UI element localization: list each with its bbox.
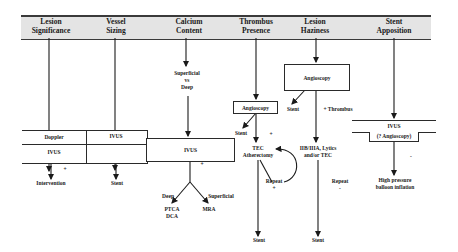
repeat-minus-label: Repeat - — [332, 178, 349, 192]
doppler-ivus-table — [22, 130, 148, 164]
apposition-ivus-label: IVUS — [387, 123, 400, 130]
calcium-ivus-label: IVUS — [147, 147, 234, 153]
high-pressure-balloon-outcome: High pressure balloon inflation — [376, 177, 415, 191]
tec-atherectomy: TEC Atherectomy — [243, 145, 273, 159]
repeat-plus-label: Repeat + — [266, 178, 283, 192]
thrombus-plus-sign: + — [269, 131, 272, 138]
intervention-outcome: Intervention — [36, 180, 65, 187]
calcium-ivus-box: IVUS — [146, 138, 235, 162]
lesion-plus-sign: + — [63, 166, 66, 173]
superficial-label: Superficial — [208, 193, 234, 200]
haziness-stent-outcome: Stent — [312, 237, 324, 244]
vessel-stent-outcome: Stent — [111, 180, 123, 187]
iib-iiia-lytics-tec: IIB/IIIA, Lytics and/or TEC — [300, 145, 337, 159]
plus-thrombus-label: + Thrombus — [323, 106, 352, 113]
haziness-stent-neg: Stent — [287, 106, 299, 113]
lesion-ivus-label: IVUS — [47, 149, 60, 156]
haziness-angioscopy-box: Angioscopy — [284, 64, 350, 91]
doppler-label: Doppler — [44, 134, 63, 141]
calcium-plus-sign: + — [200, 161, 203, 168]
thrombus-angioscopy-box: Angioscopy — [233, 101, 278, 114]
superficial-vs-deep-label: Superficial vs Deep — [174, 70, 200, 91]
ptca-dca-outcome: PTCA DCA — [165, 206, 180, 220]
vessel-ivus-label: IVUS — [109, 133, 122, 140]
apposition-minus-sign: - — [410, 153, 412, 160]
haziness-angioscopy-label: Angioscopy — [285, 75, 349, 81]
thrombus-stent-outcome: Stent — [253, 237, 265, 244]
thrombus-angioscopy-label: Angioscopy — [234, 105, 277, 111]
apposition-top-line — [352, 120, 436, 121]
thrombus-stent-neg: Stent — [235, 130, 247, 137]
table-col-divider — [86, 130, 87, 163]
deep-label: Deep — [162, 193, 174, 200]
mra-outcome: MRA — [202, 206, 215, 213]
optional-angioscopy-label: (? Angioscopy) — [377, 133, 412, 140]
